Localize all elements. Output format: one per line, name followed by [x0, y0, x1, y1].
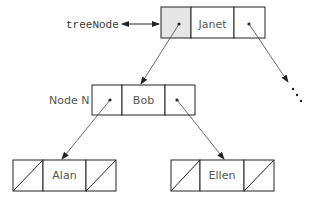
node-n-label: Node N [49, 94, 89, 107]
node-ellen: Ellen [171, 160, 274, 191]
node-value: Bob [133, 94, 154, 107]
binary-tree-diagram: treeNode Janet Node N Bob Alan [0, 0, 311, 204]
node-value: Ellen [209, 169, 236, 182]
node-janet: Janet [161, 7, 265, 38]
tree-node-label: treeNode [66, 19, 119, 31]
node-value: Alan [52, 169, 76, 182]
node-bob: Bob [92, 85, 195, 115]
node-alan: Alan [13, 160, 116, 191]
node-value: Janet [197, 18, 227, 31]
